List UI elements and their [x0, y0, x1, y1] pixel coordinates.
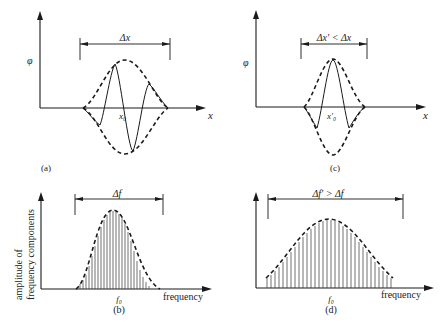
panel-caption: (d): [325, 304, 337, 316]
bracket-left-arrow-icon: [75, 197, 83, 201]
frequency-bars: [80, 211, 149, 289]
y-axis-label-line1: amplitude of: [13, 249, 24, 300]
panel-caption: (c): [330, 163, 340, 173]
x-axis-label: x: [422, 109, 428, 121]
center-label: f₀: [328, 294, 334, 304]
width-label: Δf' > Δf: [311, 188, 344, 199]
x-axis-arrow-icon: [424, 285, 434, 291]
width-label: Δx' < Δx: [316, 32, 352, 43]
envelope: [76, 210, 160, 289]
panel-caption: (a): [41, 163, 51, 173]
panel-d: frequency: [253, 188, 434, 316]
bracket-left-arrow-icon: [301, 42, 309, 46]
panel-a: φ x Δx x₀ (a): [27, 11, 213, 173]
wave-packet-diagram: φ x Δx x₀ (a) φ x Δx' < Δx x'₀ (c: [0, 0, 442, 328]
x-axis-arrow-icon: [196, 105, 206, 111]
bracket-right-arrow-icon: [395, 197, 403, 201]
y-axis-arrow-icon: [253, 10, 259, 19]
bracket-right-arrow-icon: [359, 42, 367, 46]
bracket-right-arrow-icon: [155, 197, 163, 201]
width-label: Δx: [119, 32, 131, 43]
envelope: [266, 219, 393, 278]
y-axis-arrow-icon: [253, 192, 259, 201]
center-label: x'₀: [326, 111, 336, 121]
x-axis-label: frequency: [381, 289, 421, 300]
panel-b: amplitude of frequency components freque…: [13, 188, 212, 316]
center-label: f₀: [116, 294, 122, 304]
panel-caption: (b): [113, 304, 125, 316]
center-label: x₀: [118, 111, 126, 121]
y-axis-arrow-icon: [37, 11, 43, 20]
frequency-bars: [267, 220, 391, 288]
bracket-left-arrow-icon: [80, 42, 88, 46]
x-axis-label: x: [207, 109, 213, 121]
y-axis-label: φ: [27, 55, 33, 66]
y-axis-label-line2: frequency components: [25, 209, 36, 300]
bracket-left-arrow-icon: [268, 197, 276, 201]
x-axis-label: frequency: [163, 291, 203, 302]
upper-envelope: [83, 60, 168, 108]
x-axis-arrow-icon: [202, 286, 212, 292]
upper-envelope: [304, 59, 365, 107]
y-axis-arrow-icon: [38, 192, 44, 201]
width-label: Δf: [112, 188, 123, 199]
bracket-right-arrow-icon: [162, 42, 170, 46]
panel-c: φ x Δx' < Δx x'₀ (c): [243, 10, 428, 173]
y-axis-label: φ: [243, 57, 249, 68]
